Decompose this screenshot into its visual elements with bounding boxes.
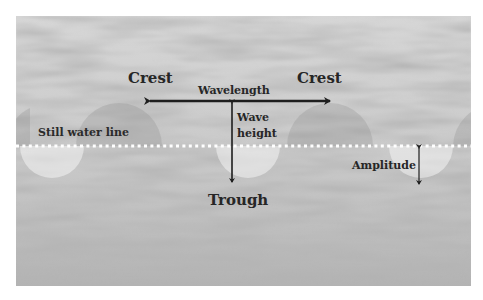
- amplitude-label: Amplitude: [352, 160, 416, 171]
- crest-right-label: Crest: [297, 71, 342, 86]
- wave-height-label-line2: height: [237, 128, 277, 139]
- still-water-line-label: Still water line: [38, 127, 129, 138]
- ocean-photo-panel: [16, 16, 471, 286]
- wave-diagram-graphic: [16, 16, 471, 286]
- crest-left-label: Crest: [128, 71, 173, 86]
- wave-height-label-line1: Wave: [237, 112, 269, 123]
- trough-label: Trough: [208, 193, 268, 208]
- wavelength-label: Wavelength: [198, 85, 270, 96]
